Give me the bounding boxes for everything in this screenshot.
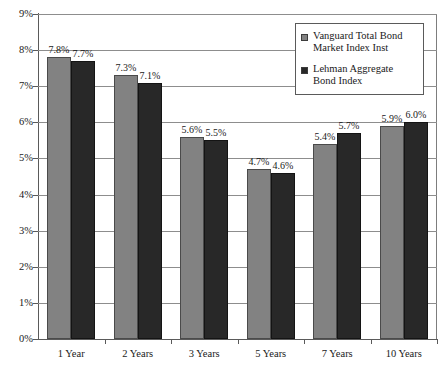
bar-5-years-series-1 [271,173,295,339]
y-axis-line [38,13,39,340]
x-tick-label-3-years: 3 Years [189,349,220,360]
y-tick-label: 3% [1,226,33,237]
gridline-5% [38,158,437,159]
legend: Vanguard Total Bond Market Index Inst Le… [295,23,424,95]
x-tick-mark [437,339,438,344]
legend-label-series-0: Vanguard Total Bond Market Index Inst [313,30,417,55]
x-tick-mark [238,339,239,344]
bar-5-years-series-0 [247,169,271,339]
value-label-2-years-series-1: 7.1% [140,71,161,81]
y-tick-label: 5% [1,153,33,164]
y-tick-mark [33,231,38,232]
value-label-10-years-series-0: 5.9% [382,114,403,124]
bar-1-year-series-1 [71,61,95,339]
value-label-5-years-series-0: 4.7% [249,157,270,167]
y-tick-mark [33,14,38,15]
x-tick-label-10-years: 10 Years [386,349,422,360]
legend-swatch-icon-series-1 [301,67,308,74]
y-tick-label: 1% [1,298,33,309]
y-tick-mark [33,267,38,268]
value-label-1-year-series-0: 7.8% [49,45,70,55]
y-tick-label: 8% [1,45,33,56]
y-tick-mark [33,303,38,304]
y-tick-mark [33,122,38,123]
x-tick-mark [304,339,305,344]
gridline-2% [38,267,437,268]
bar-10-years-series-1 [404,122,428,339]
value-label-5-years-series-1: 4.6% [273,161,294,171]
legend-entry-1[interactable]: Lehman Aggregate Bond Index [301,63,417,88]
bar-1-year-series-0 [47,57,71,339]
x-tick-label-2-years: 2 Years [122,349,153,360]
bar-7-years-series-1 [337,133,361,339]
gridline-4% [38,195,437,196]
bar-3-years-series-1 [204,140,228,339]
x-tick-label-7-years: 7 Years [322,349,353,360]
value-label-7-years-series-0: 5.4% [315,132,336,142]
gridline-1% [38,303,437,304]
x-tick-mark [371,339,372,344]
x-tick-mark [105,339,106,344]
bar-3-years-series-0 [180,137,204,339]
gridline-6% [38,122,437,123]
value-label-7-years-series-1: 5.7% [339,121,360,131]
y-tick-mark [33,50,38,51]
y-tick-label: 9% [1,9,33,20]
value-label-10-years-series-1: 6.0% [406,110,427,120]
y-tick-mark [33,195,38,196]
bar-2-years-series-1 [138,83,162,339]
value-label-1-year-series-1: 7.7% [73,49,94,59]
bar-2-years-series-0 [114,75,138,339]
y-tick-mark [33,339,38,340]
value-label-3-years-series-0: 5.6% [182,125,203,135]
y-tick-label: 2% [1,262,33,273]
y-tick-label: 0% [1,334,33,345]
legend-label-series-1: Lehman Aggregate Bond Index [313,63,417,88]
legend-entry-0[interactable]: Vanguard Total Bond Market Index Inst [301,30,417,55]
gridline-3% [38,231,437,232]
value-label-2-years-series-0: 7.3% [116,63,137,73]
y-tick-label: 4% [1,190,33,201]
y-tick-mark [33,158,38,159]
bar-chart: 0%1%2%3%4%5%6%7%8%9% 1 Year2 Years3 Year… [0,0,446,374]
y-tick-label: 7% [1,81,33,92]
legend-swatch-icon-series-0 [301,34,308,41]
y-tick-label: 6% [1,117,33,128]
x-tick-label-5-years: 5 Years [255,349,286,360]
y-tick-mark [33,86,38,87]
x-tick-mark [171,339,172,344]
value-label-3-years-series-1: 5.5% [206,128,227,138]
bar-7-years-series-0 [313,144,337,339]
gridline-9% [38,14,437,15]
x-tick-label-1-year: 1 Year [58,349,85,360]
bar-10-years-series-0 [380,126,404,339]
